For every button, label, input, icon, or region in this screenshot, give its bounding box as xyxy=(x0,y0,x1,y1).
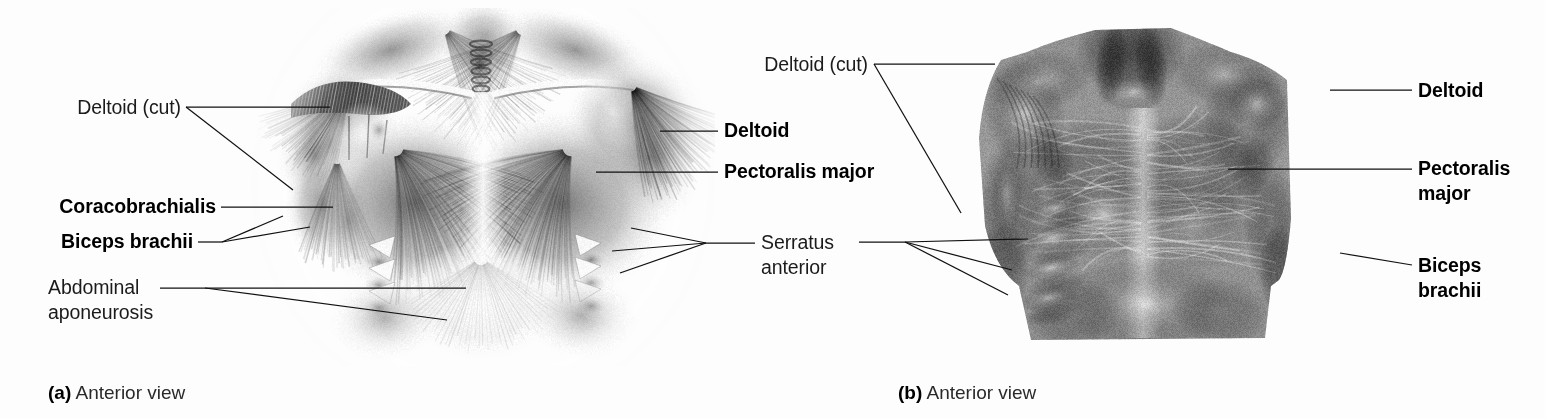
label-deltoid-b-text: Deltoid xyxy=(1418,79,1483,101)
label-deltoid-cut-a: Deltoid (cut) xyxy=(0,95,181,120)
anatomy-figure: Deltoid (cut) Coracobrachialis Biceps br… xyxy=(0,0,1545,419)
caption-panel-a-marker: (a) xyxy=(48,382,71,403)
caption-panel-b-marker: (b) xyxy=(898,382,922,403)
label-abdominal-aponeurosis-line1: Abdominal xyxy=(48,276,139,298)
label-biceps-brachii-b-line1: Biceps xyxy=(1418,254,1481,276)
label-abdominal-aponeurosis-line2: aponeurosis xyxy=(48,301,153,323)
caption-panel-b-text: Anterior view xyxy=(922,382,1036,403)
label-serratus-anterior-a: Serratusanterior xyxy=(761,230,834,280)
label-deltoid-cut-a-text: Deltoid (cut) xyxy=(77,96,181,118)
label-abdominal-aponeurosis: Abdominalaponeurosis xyxy=(48,275,153,325)
label-deltoid-b: Deltoid xyxy=(1418,78,1483,103)
label-deltoid-a: Deltoid xyxy=(724,118,789,143)
label-biceps-brachii-a: Biceps brachii xyxy=(0,229,193,254)
label-pectoralis-major-a: Pectoralis major xyxy=(724,159,874,184)
label-serratus-anterior-a-line1: Serratus xyxy=(761,231,834,253)
label-biceps-brachii-b-line2: brachii xyxy=(1418,279,1481,301)
label-deltoid-cut-b: Deltoid (cut) xyxy=(690,52,868,77)
panel-b-photograph xyxy=(935,18,1305,358)
caption-panel-a: (a) Anterior view xyxy=(48,382,185,404)
label-deltoid-cut-b-text: Deltoid (cut) xyxy=(764,53,868,75)
label-coracobrachialis: Coracobrachialis xyxy=(0,194,216,219)
label-pectoralis-major-b-line1: Pectoralis xyxy=(1418,157,1510,179)
caption-panel-b: (b) Anterior view xyxy=(898,382,1036,404)
label-biceps-brachii-a-text: Biceps brachii xyxy=(61,230,193,252)
label-coracobrachialis-text: Coracobrachialis xyxy=(59,195,216,217)
leader-biceps-b1 xyxy=(1340,253,1412,265)
label-pectoralis-major-a-text: Pectoralis major xyxy=(724,160,874,182)
label-deltoid-a-text: Deltoid xyxy=(724,119,789,141)
label-pectoralis-major-b-line2: major xyxy=(1418,182,1471,204)
label-biceps-brachii-b: Bicepsbrachii xyxy=(1418,253,1481,303)
label-pectoralis-major-b: Pectoralismajor xyxy=(1418,156,1510,206)
label-serratus-anterior-a-line2: anterior xyxy=(761,256,826,278)
panel-a-illustration xyxy=(245,8,715,366)
caption-panel-a-text: Anterior view xyxy=(71,382,185,403)
